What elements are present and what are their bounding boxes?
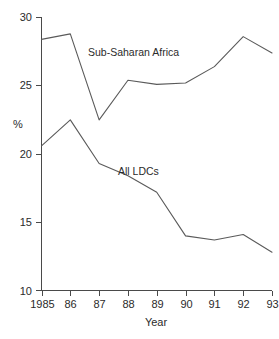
x-tick-label-93: 93 — [266, 298, 278, 310]
x-tick-label-88: 88 — [122, 298, 134, 310]
x-tick-label-91: 91 — [208, 298, 220, 310]
series-lines — [42, 34, 273, 252]
x-tick-label-90: 90 — [180, 298, 192, 310]
x-tick-label-1985: 1985 — [30, 298, 54, 310]
x-tick-labels: 19858687888990919293 — [30, 298, 278, 310]
y-tick-label-15: 15 — [20, 216, 32, 228]
y-axis-title: % — [13, 118, 23, 130]
y-axis: 30 25 20 15 10 % — [13, 11, 41, 297]
chart-canvas: 30 25 20 15 10 % 19858687888990919293 Ye… — [0, 0, 279, 339]
y-tick-label-20: 20 — [20, 148, 32, 160]
x-axis: 19858687888990919293 Year — [30, 291, 278, 329]
y-tick-label-25: 25 — [20, 79, 32, 91]
x-tick-label-87: 87 — [93, 298, 105, 310]
y-tick-label-30: 30 — [20, 11, 32, 23]
series-path-all-ldcs — [42, 120, 273, 252]
x-tick-label-86: 86 — [64, 298, 76, 310]
series-label-all-ldcs: All LDCs — [118, 165, 159, 177]
x-tick-label-89: 89 — [151, 298, 163, 310]
series-label-sub-saharan-africa: Sub-Saharan Africa — [88, 46, 179, 58]
x-tick-marks — [43, 291, 273, 296]
line-chart: 30 25 20 15 10 % 19858687888990919293 Ye… — [0, 0, 279, 339]
x-axis-title: Year — [145, 316, 168, 328]
y-tick-label-10: 10 — [20, 285, 32, 297]
x-tick-label-92: 92 — [237, 298, 249, 310]
